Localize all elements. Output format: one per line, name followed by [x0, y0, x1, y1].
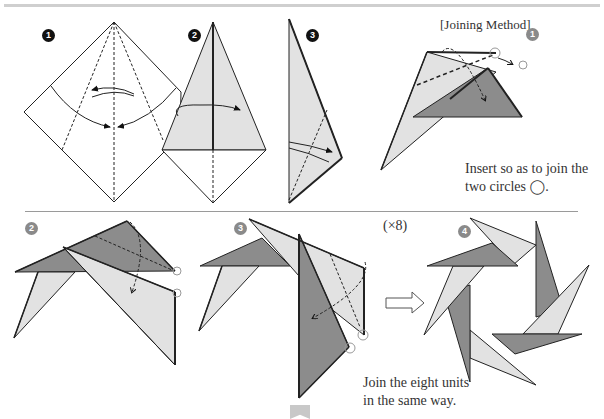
step1-diagram — [24, 22, 181, 202]
repeat-count: (×8) — [383, 217, 407, 235]
join-step1-diagram — [381, 48, 527, 170]
joining-method-title: [Joining Method] — [440, 17, 531, 33]
final-instruction-line-2: in the same way. — [363, 392, 456, 410]
join-step-3-badge: 3 — [234, 222, 247, 235]
step-2-badge: 2 — [188, 29, 201, 42]
instruction-line-2: two circles ◯. — [465, 178, 549, 196]
join-step-2-badge: 2 — [25, 222, 38, 235]
join-step2-diagram — [14, 221, 181, 365]
join-step3-diagram — [199, 219, 368, 398]
join-step-4-badge: 4 — [458, 225, 471, 238]
diagram-art — [0, 0, 604, 419]
step-3-badge: 3 — [306, 29, 319, 42]
final-star-diagram — [424, 218, 589, 385]
final-instruction-line-1: Join the eight units — [363, 374, 469, 392]
join-step-1-badge: 1 — [526, 28, 539, 41]
step-1-badge: 1 — [42, 29, 55, 42]
step2-diagram — [162, 22, 266, 203]
hollow-arrow-icon — [386, 292, 424, 313]
step3-diagram — [289, 19, 342, 203]
instruction-line-1: Insert so as to join the — [465, 160, 588, 178]
